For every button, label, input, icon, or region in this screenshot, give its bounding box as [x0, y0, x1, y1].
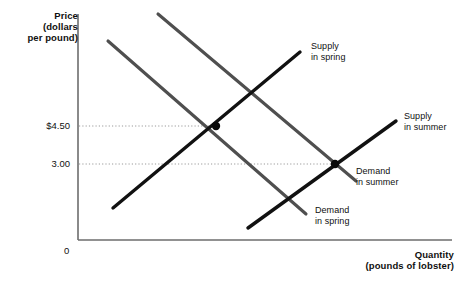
curve-label-supply-in-summer-line1: Supply	[404, 111, 432, 121]
y-tick-label-3-00: 3.00	[22, 158, 70, 169]
x-axis-title-line1: Quantity	[415, 249, 454, 260]
summer-equilibrium-point	[331, 160, 339, 168]
x-axis-title-line2: (pounds of lobster)	[366, 260, 454, 271]
y-axis-title: Price(dollarsper pound)	[12, 10, 78, 44]
curve-label-demand-in-spring: Demandin spring	[315, 205, 349, 226]
curve-label-supply-in-summer-line2: in summer	[404, 122, 446, 132]
supply-demand-chart: Price(dollarsper pound) $4.50 3.00 0 Qua…	[0, 0, 459, 284]
y-axis-title-line3: per pound)	[27, 32, 78, 43]
curve-label-demand-in-summer-line1: Demand	[356, 166, 390, 176]
origin-label: 0	[64, 245, 69, 256]
curve-label-demand-in-spring-line1: Demand	[315, 205, 349, 215]
curve-label-supply-in-summer: Supplyin summer	[404, 111, 446, 132]
curve-label-supply-in-spring-line1: Supply	[311, 41, 339, 51]
curve-label-supply-in-spring-line2: in spring	[311, 52, 345, 62]
x-axis-title: Quantity(pounds of lobster)	[334, 249, 454, 271]
curve-demand-in-summer	[158, 14, 356, 181]
y-axis-title-line1: Price	[54, 10, 78, 21]
y-tick-label-4-50: $4.50	[22, 120, 70, 131]
curve-label-supply-in-spring: Supplyin spring	[311, 41, 345, 62]
curve-label-demand-in-spring-line2: in spring	[315, 216, 349, 226]
curve-label-demand-in-summer: Demandin summer	[356, 166, 398, 187]
curve-label-demand-in-summer-line2: in summer	[356, 177, 398, 187]
y-axis-title-line2: (dollars	[43, 21, 78, 32]
spring-equilibrium-point	[212, 122, 220, 130]
